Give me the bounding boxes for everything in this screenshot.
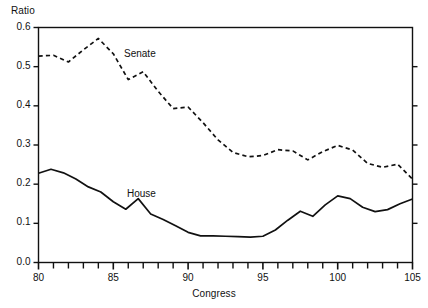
- series-line-senate: [39, 38, 413, 179]
- data-series: [39, 38, 413, 237]
- chart-figure: Ratio Congress Senate House 0.00.10.20.3…: [0, 0, 428, 308]
- series-line-house: [39, 169, 413, 237]
- tick-marks: [34, 28, 418, 270]
- plot-frame: [39, 28, 413, 263]
- plot-canvas: [0, 0, 428, 308]
